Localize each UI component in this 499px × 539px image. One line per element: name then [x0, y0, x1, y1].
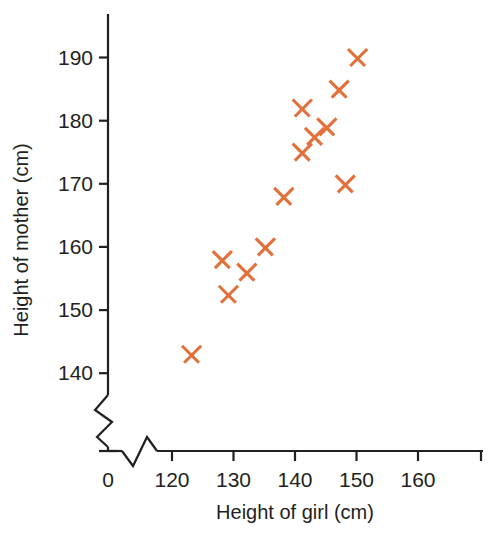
y-tick-label-150: 150	[58, 298, 93, 321]
x-tick-label-130: 130	[216, 468, 251, 491]
data-point-marker	[293, 100, 312, 117]
y-tick-labels: 190 180 170 160 150 140	[58, 46, 93, 384]
x-tick-label-160: 160	[400, 468, 435, 491]
data-point-marker	[305, 128, 324, 145]
data-point-marker	[348, 49, 367, 66]
data-point-marker	[213, 251, 232, 268]
data-point-marker	[182, 346, 201, 363]
y-tick-label-190: 190	[58, 46, 93, 69]
x-axis: 0 120 130 140 150 160 Height of girl (cm…	[102, 437, 483, 523]
data-point-marker	[274, 188, 293, 205]
data-point-marker	[293, 144, 312, 161]
x-tick-marks	[172, 451, 481, 461]
y-axis: 190 180 170 160 150 140 Height of mother…	[10, 14, 117, 451]
x-tick-label-150: 150	[339, 468, 374, 491]
x-axis-break-icon	[122, 437, 157, 466]
y-axis-title: Height of mother (cm)	[10, 143, 32, 336]
y-tick-label-170: 170	[58, 172, 93, 195]
chart-svg: 190 180 170 160 150 140 Height of mother…	[0, 0, 499, 539]
scatter-chart: 190 180 170 160 150 140 Height of mother…	[0, 0, 499, 539]
y-tick-label-180: 180	[58, 109, 93, 132]
x-tick-label-0: 0	[102, 468, 114, 491]
x-tick-labels: 0 120 130 140 150 160	[102, 468, 435, 491]
x-axis-title: Height of girl (cm)	[216, 501, 374, 523]
y-tick-label-140: 140	[58, 361, 93, 384]
y-tick-label-160: 160	[58, 235, 93, 258]
data-point-marker	[256, 238, 275, 255]
data-point-marker	[237, 264, 256, 281]
x-tick-label-140: 140	[277, 468, 312, 491]
y-axis-break-icon	[95, 395, 112, 447]
data-point-marker	[317, 118, 336, 135]
data-point-marker	[330, 81, 349, 98]
x-tick-label-120: 120	[154, 468, 189, 491]
data-points-layer	[182, 49, 367, 363]
data-point-marker	[336, 175, 355, 192]
data-point-marker	[219, 286, 238, 303]
